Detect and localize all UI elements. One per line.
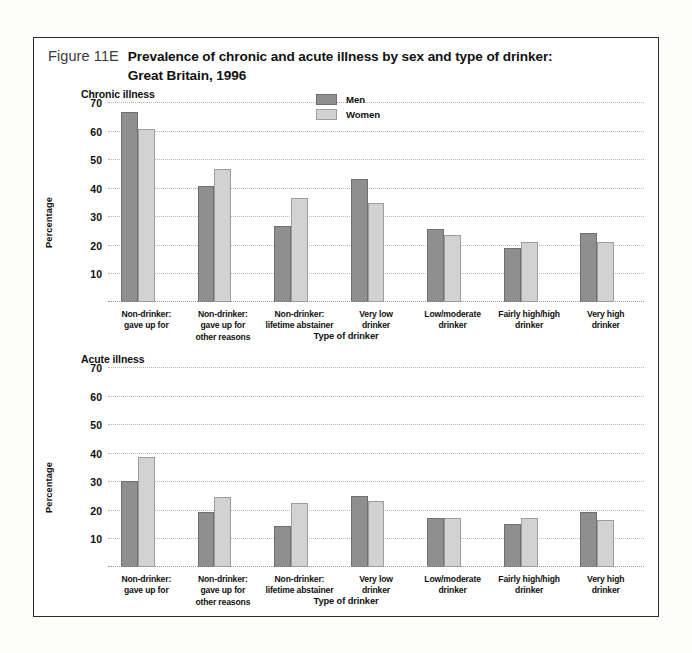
page-title: Prevalence of chronic and acute illness … [128,48,553,86]
y-axis-label-acute: Percentage [44,462,54,513]
figure-frame: Figure 11E Prevalence of chronic and acu… [33,37,659,617]
y-tick-label-chronic-50: 50 [90,154,102,166]
legend-item-women: Women [316,109,380,120]
bar-acute-5-women [521,518,538,567]
bar-chronic-4-men [427,229,444,302]
y-axis-label-chronic: Percentage [44,197,54,248]
x-tick-label-line: drinker [550,320,662,331]
bar-acute-4-women [444,518,461,567]
bar-group-chronic-5: Fairly high/highdrinker [491,102,568,302]
bar-group-acute-0: Non-drinker:gave up for [108,367,185,567]
bar-acute-0-men [121,481,138,567]
y-tick-label-chronic-70: 70 [90,97,102,109]
x-tick-label-chronic-6: Very highdrinker [550,309,662,332]
y-tick-label-acute-70: 70 [90,362,102,374]
bar-chronic-3-women [368,203,385,302]
bar-acute-3-women [368,501,385,567]
legend-label-men: Men [346,94,365,105]
chart-chronic-illness: Chronic illness Percentage 1020304050607… [34,88,658,343]
bar-group-chronic-3: Very lowdrinker [338,102,415,302]
x-tick-label-acute-6: Very highdrinker [550,574,662,597]
bar-chronic-6-women [597,242,614,302]
bar-acute-1-men [198,512,215,567]
x-axis-label-acute: Type of drinker [314,596,379,606]
legend-item-men: Men [316,94,380,105]
bar-group-acute-2: Non-drinker:lifetime abstainer [261,367,338,567]
x-axis-acute [108,566,644,567]
legend-label-women: Women [346,109,380,120]
y-tick-label-chronic-40: 40 [90,183,102,195]
y-tick-label-acute-20: 20 [90,505,102,517]
bar-acute-2-women [291,503,308,567]
bar-acute-1-women [214,497,231,567]
bar-group-chronic-6: Very highdrinker [567,102,644,302]
bar-chronic-6-men [580,233,597,302]
y-tick-label-acute-50: 50 [90,419,102,431]
y-tick-label-chronic-30: 30 [90,211,102,223]
y-tick-label-acute-60: 60 [90,391,102,403]
figure-header: Figure 11E Prevalence of chronic and acu… [48,48,646,86]
bar-group-acute-5: Fairly high/highdrinker [491,367,568,567]
bar-acute-3-men [351,496,368,567]
bar-group-chronic-0: Non-drinker:gave up for [108,102,185,302]
bar-acute-0-women [138,457,155,567]
bar-chronic-4-women [444,235,461,302]
bar-acute-6-men [580,512,597,567]
x-tick-label-line: other reasons [167,332,279,343]
y-tick-label-chronic-60: 60 [90,126,102,138]
legend-chronic: Men Women [316,94,380,120]
bar-group-chronic-4: Low/moderatedrinker [414,102,491,302]
x-tick-label-line: Very high [550,309,662,320]
x-tick-label-line: drinker [550,585,662,596]
bar-chronic-1-women [214,169,231,302]
bar-chronic-5-women [521,242,538,302]
x-tick-label-line: other reasons [167,597,279,608]
bar-acute-5-men [504,524,521,567]
bar-group-acute-4: Low/moderatedrinker [414,367,491,567]
bar-chronic-1-men [198,186,215,302]
y-tick-label-acute-10: 10 [90,533,102,545]
x-axis-chronic [108,301,644,302]
bar-chronic-2-women [291,198,308,302]
bar-chronic-5-men [504,248,521,302]
figure-title-line-1: Prevalence of chronic and acute illness … [128,48,553,67]
bar-chronic-0-men [121,112,138,302]
bar-group-chronic-1: Non-drinker:gave up forother reasons [185,102,262,302]
x-axis-label-chronic: Type of drinker [314,331,379,341]
legend-swatch-men-icon [316,94,337,105]
bar-acute-2-men [274,526,291,567]
bar-acute-4-men [427,518,444,567]
bar-chronic-0-women [138,129,155,302]
y-tick-label-chronic-20: 20 [90,240,102,252]
figure-number: Figure 11E [48,48,119,64]
y-tick-label-acute-30: 30 [90,476,102,488]
chart-acute-illness: Acute illness Percentage 10203040506070 … [34,353,658,608]
figure-title-line-2: Great Britain, 1996 [128,67,553,86]
bar-chronic-3-men [351,179,368,302]
bar-group-acute-6: Very highdrinker [567,367,644,567]
bar-acute-6-women [597,520,614,567]
bar-group-acute-1: Non-drinker:gave up forother reasons [185,367,262,567]
y-tick-label-acute-40: 40 [90,448,102,460]
bar-groups-acute: Non-drinker:gave up forNon-drinker:gave … [108,367,644,567]
plot-area-acute: 10203040506070 Non-drinker:gave up forNo… [108,367,644,567]
y-tick-label-chronic-10: 10 [90,268,102,280]
legend-swatch-women-icon [316,109,337,120]
figure-page: Figure 11E Prevalence of chronic and acu… [0,0,692,653]
x-tick-label-line: Very high [550,574,662,585]
plot-area-chronic: 10203040506070 Non-drinker:gave up forNo… [108,102,644,302]
bar-group-acute-3: Very lowdrinker [338,367,415,567]
bar-chronic-2-men [274,226,291,302]
bar-groups-chronic: Non-drinker:gave up forNon-drinker:gave … [108,102,644,302]
bar-group-chronic-2: Non-drinker:lifetime abstainer [261,102,338,302]
